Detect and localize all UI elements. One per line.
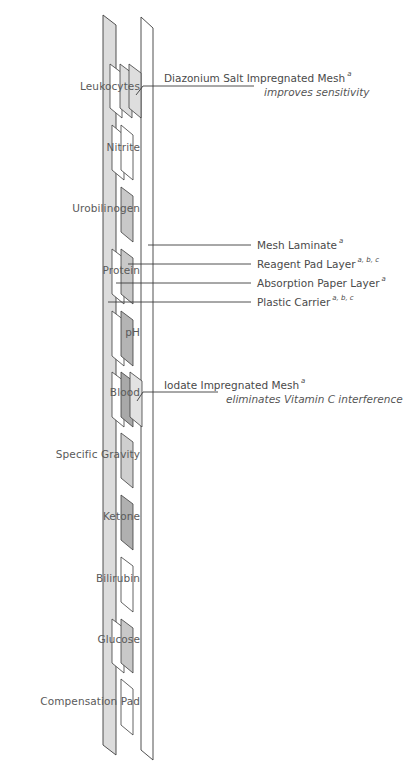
callout-line-diazonium — [136, 86, 254, 95]
label-protein: Protein — [102, 264, 140, 276]
pad-glucose — [112, 619, 133, 673]
label-bilirubin: Bilirubin — [96, 572, 140, 584]
callout-iodate-sup: a — [301, 377, 305, 385]
callout-diazonium: Diazonium Salt Impregnated Mesha — [164, 71, 351, 84]
pad-protein — [112, 249, 133, 304]
callout-plastic-carrier-sup: a, b, c — [332, 294, 353, 302]
callout-iodate-label: Iodate Impregnated Mesh — [164, 379, 299, 391]
pad-compensation — [121, 679, 133, 735]
pad-bilirubin — [121, 557, 133, 612]
callout-plastic-carrier-label: Plastic Carrier — [257, 296, 330, 308]
callout-absorption-paper-sup: a — [382, 275, 386, 283]
callout-reagent-pad-label: Reagent Pad Layer — [257, 258, 356, 270]
label-glucose: Glucose — [97, 633, 140, 645]
note-diazonium: improves sensitivity — [264, 86, 370, 98]
pad-ph — [112, 311, 133, 366]
label-blood: Blood — [110, 386, 140, 398]
label-specific-gravity: Specific Gravity — [56, 448, 140, 460]
pad-specific-gravity — [121, 433, 133, 488]
mesh-laminate-strip — [141, 17, 153, 760]
pad-ketone — [121, 495, 133, 550]
callout-absorption-paper-label: Absorption Paper Layer — [257, 277, 380, 289]
label-ph: pH — [125, 326, 140, 338]
callout-absorption-paper-layer: Absorption Paper Layera — [257, 276, 386, 289]
label-nitrite: Nitrite — [107, 141, 140, 153]
label-urobilinogen: Urobilinogen — [72, 202, 140, 214]
callout-reagent-pad-sup: a, b, c — [358, 256, 379, 264]
callout-iodate: Iodate Impregnated Mesha — [164, 378, 305, 391]
note-iodate: eliminates Vitamin C interference — [226, 393, 403, 405]
label-compensation-pad: Compensation Pad — [40, 695, 140, 707]
callout-mesh-laminate-sup: a — [339, 237, 343, 245]
callout-plastic-carrier: Plastic Carriera, b, c — [257, 295, 354, 308]
callout-diazonium-sup: a — [347, 70, 351, 78]
callout-reagent-pad-layer: Reagent Pad Layera, b, c — [257, 257, 379, 270]
callout-diazonium-label: Diazonium Salt Impregnated Mesh — [164, 72, 345, 84]
callout-mesh-laminate-label: Mesh Laminate — [257, 239, 337, 251]
label-ketone: Ketone — [103, 510, 140, 522]
pad-urobilinogen — [121, 187, 133, 242]
callout-mesh-laminate: Mesh Laminatea — [257, 238, 343, 251]
label-leukocytes: Leukocytes — [80, 80, 140, 92]
